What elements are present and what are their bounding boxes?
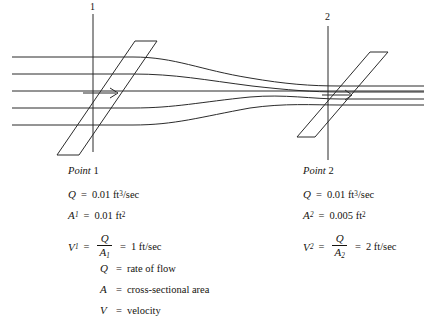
point-1-area-equation: A1 = 0.01 ft2 (68, 209, 125, 221)
point-2-flow-rate-equation: Q = 0.01 ft3/sec (303, 188, 374, 200)
point-2-V-numerator: Q (334, 233, 346, 245)
point-2-V-equals-2: = (355, 241, 361, 252)
plane-1 (57, 41, 157, 155)
definition-row: A = cross-sectional area (100, 283, 209, 295)
definition-row: Q = rate of flow (100, 262, 176, 274)
point-2-heading-word: Point (303, 165, 326, 176)
point-2-area-equation: A2 = 0.005 ft2 (303, 209, 366, 221)
definition-symbol: Q (100, 262, 111, 274)
point-2-A-equals: = (319, 210, 325, 221)
point-2-velocity-equation: V2 = Q A2 = 2 ft/sec (303, 233, 397, 260)
point-1-velocity-equation: V1 = Q A1 = 1 ft/sec (68, 233, 162, 260)
point-2-heading-number: 2 (328, 165, 333, 176)
point-2-Q-unit: /sec (358, 189, 374, 200)
point-2-V-symbol: V (303, 241, 310, 253)
point-2-heading: Point 2 (303, 166, 334, 177)
point-1-flow-rate-equation: Q = 0.01 ft3/sec (68, 188, 139, 200)
streamline (12, 74, 424, 92)
point-2-V-denominator: A2 (332, 246, 347, 260)
point-1-heading-word: Point (68, 165, 91, 176)
flow-arrow-1 (83, 88, 118, 98)
point-1-V-numerator: Q (99, 233, 111, 245)
point-1-V-denominator: A1 (97, 246, 112, 260)
point-1-A-symbol: A (68, 209, 75, 221)
point-1-V-value: 1 ft/sec (131, 241, 162, 252)
streamline-group (12, 57, 424, 125)
definition-text: rate of flow (127, 263, 176, 274)
point-2-V-fraction: Q A2 (332, 233, 347, 260)
point-2-A-value: 0.005 ft (329, 210, 362, 221)
definition-equals: = (116, 284, 122, 295)
point-1-V-subscript: 1 (75, 243, 79, 251)
point-2-V-subscript: 2 (310, 243, 314, 251)
point-1-Q-symbol: Q (68, 188, 76, 200)
point-2-Q-equals: = (316, 189, 322, 200)
point-1-V-equals-2: = (120, 241, 126, 252)
point-2-A-subscript: 2 (310, 211, 314, 219)
point-1-V-equals: = (84, 241, 90, 252)
point-2-V-denominator-subscript: 2 (341, 252, 345, 260)
section-label-1: 1 (90, 2, 95, 12)
point-2-Q-value: 0.01 ft (327, 189, 354, 200)
point-1-A-equals: = (84, 210, 90, 221)
point-2-A-exponent: 2 (362, 211, 366, 219)
streamline (12, 96, 424, 108)
figure-page: 1 2 Point 1 Q = 0.01 ft3/sec A1 = 0.01 f… (0, 0, 425, 333)
point-2-Q-symbol: Q (303, 188, 311, 200)
point-2-V-value: 2 ft/sec (366, 241, 397, 252)
point-1-Q-value: 0.01 ft (92, 189, 119, 200)
definition-text: velocity (127, 305, 161, 316)
definition-symbol: V (100, 304, 111, 316)
definition-equals: = (116, 305, 122, 316)
point-2-A-symbol: A (303, 209, 310, 221)
point-1-A-value: 0.01 ft (94, 210, 121, 221)
point-1-V-fraction: Q A1 (97, 233, 112, 260)
flow-diagram (0, 0, 425, 170)
point-2-V-equals: = (319, 241, 325, 252)
point-1-Q-equals: = (81, 189, 87, 200)
definition-equals: = (116, 263, 122, 274)
point-1-V-denominator-subscript: 1 (106, 252, 110, 260)
point-1-Q-unit: /sec (123, 189, 139, 200)
point-1-A-exponent: 2 (122, 211, 126, 219)
point-1-heading-number: 1 (93, 165, 98, 176)
point-1-V-symbol: V (68, 241, 75, 253)
definition-text: cross-sectional area (127, 284, 210, 295)
section-label-2: 2 (325, 12, 330, 22)
point-1-heading: Point 1 (68, 166, 99, 177)
definition-row: V = velocity (100, 304, 161, 316)
point-1-A-subscript: 1 (75, 211, 79, 219)
definition-symbol: A (100, 283, 111, 295)
